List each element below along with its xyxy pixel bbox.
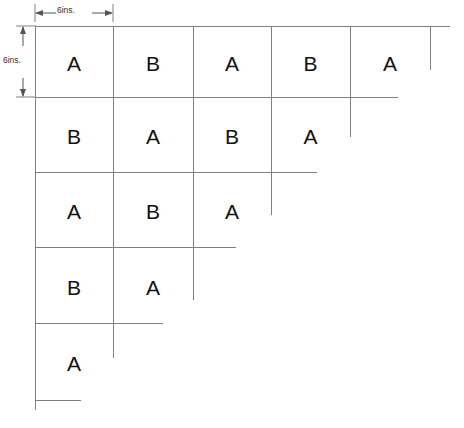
grid-cell-letter: A (193, 201, 271, 222)
vertical-dimension-label: 6ins. (3, 56, 21, 65)
grid-cell-letter: A (35, 53, 113, 74)
horizontal-dimension-arrow (30, 2, 122, 24)
horizontal-dimension-label: 6ins. (57, 6, 75, 15)
grid-cell-letter: B (113, 53, 193, 74)
grid-hline-row2 (35, 172, 317, 173)
grid-cell-letter: B (193, 126, 271, 147)
grid-cell-letter: B (35, 126, 113, 147)
grid-cell-letter: A (193, 53, 271, 74)
grid-vline-col4 (350, 26, 351, 137)
grid-cell-letter: A (113, 126, 193, 147)
grid-cell-letter: A (350, 53, 430, 74)
grid-cell-letter: B (271, 53, 350, 74)
grid-hline-row3 (35, 247, 236, 248)
grid-hline-row5 (35, 400, 81, 401)
grid-hline-top (35, 26, 450, 27)
grid-cell-letter: A (113, 277, 193, 298)
grid-cell-letter: A (35, 353, 113, 374)
grid-vline-col1 (113, 26, 114, 358)
grid-cell-letter: A (35, 201, 113, 222)
grid-hline-row1 (35, 97, 398, 98)
staircase-grid-figure: 6ins. 6ins. A B A B A B A B A A B A B A … (0, 0, 464, 428)
grid-cell-letter: B (113, 201, 193, 222)
grid-vline-col5 (430, 26, 431, 70)
grid-hline-row4 (35, 323, 163, 324)
grid-cell-letter: A (271, 126, 350, 147)
grid-cell-letter: B (35, 277, 113, 298)
